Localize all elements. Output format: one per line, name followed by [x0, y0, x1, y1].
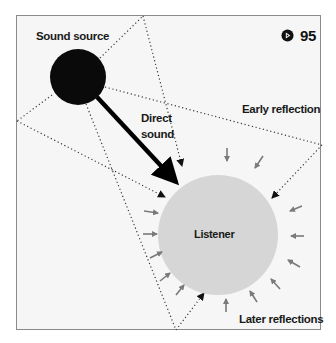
play-circle-icon — [281, 29, 294, 42]
direct-sound-label-line1: Direct — [141, 110, 174, 126]
sound-source-label: Sound source — [36, 30, 109, 42]
early-reflection-label: Early reflection — [242, 103, 320, 115]
listener-label: Listener — [194, 228, 234, 240]
direct-sound-label-line2: sound — [141, 126, 174, 142]
reflection-diagram — [0, 0, 336, 343]
direct-sound-label: Direct sound — [141, 110, 174, 142]
figure-badge: 95 — [281, 27, 316, 44]
figure-number: 95 — [300, 27, 316, 44]
later-reflections-label: Later reflections — [239, 313, 323, 325]
